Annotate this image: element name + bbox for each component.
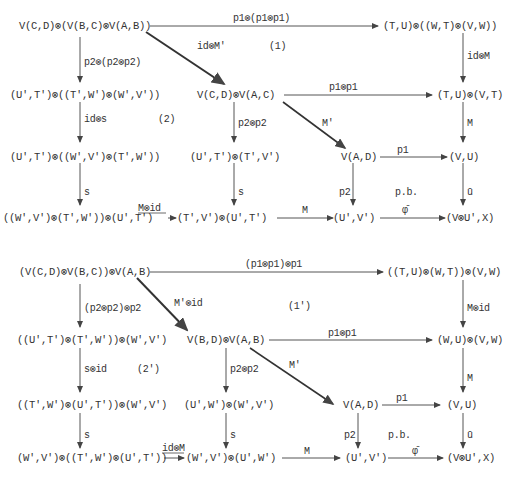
top-node-n12: (U',V') [333,212,375,224]
bottom-node-n4: V(B,D)⊗V(A,B) [187,334,265,346]
top-label-a-n2-n5: id⊗M [467,51,490,63]
arrow-bot-n4-n8 [250,348,333,404]
top-label-region1: (1) [269,41,286,53]
top-label-a-n8-n9: p1 [397,145,408,157]
top-label-a-n5-n9: M [467,118,473,130]
bottom-label-a-n4-n5: p1⊗p1 [328,328,357,340]
top-label-a-n9-n13: ū [467,187,473,199]
top-node-n1: V(C,D)⊗(V(B,C)⊗V(A,B)) [19,20,151,32]
bottom-label-region1: (1') [288,301,311,313]
top-node-n3: (U',T')⊗((T',W')⊗(W',V')) [10,89,160,101]
bottom-node-n6: ((T',W')⊗(U',T'))⊗(W',V') [17,399,167,411]
bottom-node-n11: (W',V')⊗(U',W') [186,452,276,464]
bottom-label-a-n5-n9: M [467,373,473,385]
top-label-a-n3-n6: id⊗s [84,114,107,126]
top-node-n6: (U',T')⊗((W',V')⊗(T',W')) [10,151,160,163]
top-label-a-n6-n10: s [84,187,90,199]
bottom-label-a-n3-n6: s⊗id [84,364,107,376]
bottom-label-a-n1-n2: (p1⊗p1)⊗p1 [245,259,302,271]
top-label-a-n1-n3: p2⊗(p2⊗p2) [84,57,141,69]
top-label-a-n1-n4: id⊗M' [197,41,226,53]
top-label-region2: (2) [158,114,175,126]
bottom-label-region2: (2') [137,364,160,376]
bottom-node-n10: (W',V')⊗((T',W')⊗(U',T')) [17,452,167,464]
bottom-label-a-n10-n11: id⊗M [162,443,185,455]
bottom-label-a-n9-n13: ū [467,430,473,442]
bottom-node-n2: ((T,U)⊗(W,T))⊗(V,W) [387,266,501,278]
top-label-a-n4-n8: M' [322,118,333,130]
top-label-a-n10-n11: M⊗id [138,203,161,215]
top-label-a-n12-n13: φ̄ [402,205,408,217]
bottom-node-n7: (U',W')⊗(W',V') [184,399,274,411]
bottom-node-n13: (V⊗U',X) [447,452,495,464]
bottom-label-a-n1-n4: M'⊗id [174,298,203,310]
bottom-node-n1: (V(C,D)⊗V(B,C))⊗V(A,B) [19,266,151,278]
top-label-a-n4-n5: p1⊗p1 [329,82,358,94]
top-node-n13: (V⊗U',X) [446,212,494,224]
bottom-label-a-n12-n13: φ̄ [412,446,418,458]
top-node-n4: V(C,D)⊗V(A,C) [197,89,275,101]
top-label-a-n7-n11: s [238,187,244,199]
top-node-n9: (V,U) [449,151,479,163]
top-label-a-n8-n12: p2 [339,187,350,199]
top-node-n10: ((W',V')⊗(T',W'))⊗(U',T') [3,212,153,224]
bottom-label-a-n4-n7: p2⊗p2 [230,364,259,376]
bottom-label-a-n1-n3: (p2⊗p2)⊗p2 [84,303,141,315]
bottom-label-a-n2-n5: M⊗id [467,303,490,315]
top-label-a-n4-n7: p2⊗p2 [238,118,267,130]
bottom-node-n8: V(A,D) [343,399,379,411]
top-node-n7: (U',T')⊗(T',V') [190,151,280,163]
bottom-node-n3: ((U',T')⊗(T',W'))⊗(W',V') [17,334,167,346]
top-node-n8: V(A,D) [341,151,377,163]
bottom-label-a-n8-n12: p2 [344,430,355,442]
bottom-label-a-n4-n8: M' [289,360,300,372]
bottom-label-a-n8-n9: p1 [396,393,407,405]
arrows-layer [0,0,521,486]
top-label-pullback: p.b. [395,187,418,199]
arrow-top-n4-n8 [283,102,345,148]
bottom-label-pullback: p.b. [388,430,411,442]
top-node-n5: (T,U)⊗(V,T) [437,89,503,101]
top-label-a-n1-n2: p1⊗(p1⊗p1) [233,13,290,25]
bottom-label-a-n11-n12: M [304,446,310,458]
bottom-node-n5: (W,U)⊗(V,W) [437,334,503,346]
top-node-n11: (T',V')⊗(U',T') [177,212,267,224]
bottom-label-a-n7-n11: s [230,430,236,442]
bottom-node-n12: (U',V') [345,452,387,464]
bottom-label-a-n6-n10: s [84,430,90,442]
bottom-node-n9: (V,U) [447,399,477,411]
arrow-top-n1-n4 [146,32,224,84]
top-label-a-n11-n12: M [302,205,308,217]
top-node-n2: (T,U)⊗((W,T)⊗(V,W)) [383,20,497,32]
